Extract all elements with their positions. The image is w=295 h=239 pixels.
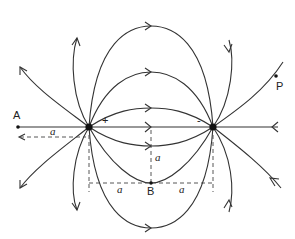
positive-outgoing-lines bbox=[20, 38, 89, 210]
axis-field-line bbox=[18, 122, 278, 132]
dimension-a-label: a bbox=[155, 151, 161, 163]
point-B-label: B bbox=[147, 185, 154, 197]
upper-field-lines bbox=[89, 22, 213, 127]
positive-charge bbox=[85, 123, 92, 130]
dimension-a-label: a bbox=[50, 125, 56, 137]
negative-charge bbox=[209, 123, 216, 130]
dimension-a-label: a bbox=[117, 183, 123, 195]
point-A-marker bbox=[16, 125, 20, 129]
point-P-marker bbox=[274, 74, 278, 78]
positive-sign-label: + bbox=[102, 114, 108, 126]
dipole-field-diagram: + - A P B a a a a bbox=[0, 0, 295, 239]
negative-sign-label: - bbox=[197, 114, 201, 126]
point-A-label: A bbox=[13, 109, 21, 121]
dimension-a-label: a bbox=[179, 183, 185, 195]
point-P-label: P bbox=[276, 80, 283, 92]
